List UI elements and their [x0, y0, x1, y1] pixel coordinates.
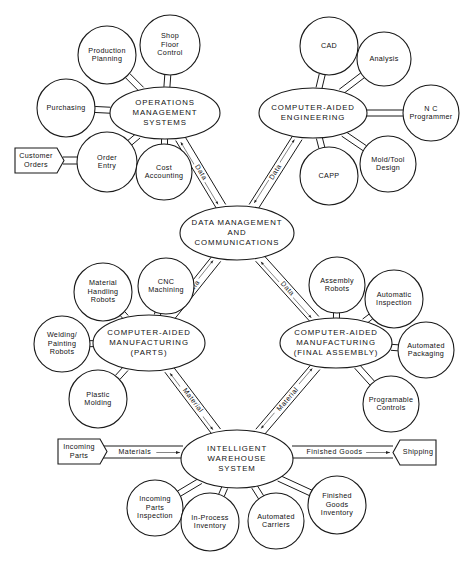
node-label: Analysis — [369, 54, 398, 63]
hub-label: COMMUNICATIONS — [195, 238, 280, 247]
hub-label: SYSTEMS — [143, 118, 187, 127]
hub-label: MANAGEMENT — [133, 108, 198, 117]
link-camf-iws: Material — [256, 363, 320, 436]
spoke-purchasing — [95, 106, 111, 113]
node-assembly-robots[interactable]: AssemblyRobots — [309, 257, 365, 313]
link-cae-dmc: Data — [249, 134, 302, 209]
spoke-mold-tool-design — [342, 131, 367, 151]
hub-label: WAREHOUSE — [208, 454, 267, 463]
hub-iws[interactable]: INTELLIGENTWAREHOUSESYSTEM — [181, 430, 293, 488]
node-label: Molding — [84, 398, 111, 407]
node-cost-accounting[interactable]: CostAccounting — [136, 144, 192, 200]
hub-cae[interactable]: COMPUTER-AIDEDENGINEERING — [259, 88, 367, 138]
hub-label: DATA MANAGEMENT — [192, 218, 283, 227]
node-programable-controls[interactable]: ProgramableControls — [363, 376, 419, 432]
node-label: Control — [157, 48, 182, 57]
spoke-analysis — [339, 73, 364, 94]
terminal-label: Shipping — [403, 447, 433, 456]
hub-camf[interactable]: COMPUTER-AIDEDMANUFACTURING(FINAL ASSEMB… — [280, 318, 392, 368]
node-incoming-parts-inspection[interactable]: IncomingPartsInspection — [127, 480, 183, 536]
node-layer: OPERATIONSMANAGEMENTSYSTEMSCOMPUTER-AIDE… — [34, 15, 459, 551]
hub-label: SYSTEM — [218, 464, 255, 473]
cim-diagram: DataDataDataDataMaterialMaterial Materia… — [0, 0, 474, 564]
node-mold-tool-design[interactable]: Mold/ToolDesign — [360, 136, 416, 192]
node-label: Packaging — [408, 349, 444, 358]
terminal-incoming-parts[interactable]: IncomingParts — [58, 439, 107, 464]
hub-camp[interactable]: COMPUTER-AIDEDMANUFACTURING(PARTS) — [93, 315, 205, 371]
terminal-shipping[interactable]: Shipping — [393, 440, 436, 465]
node-label: Purchasing — [47, 103, 86, 112]
hub-label: COMPUTER-AIDED — [107, 328, 191, 337]
node-label: Robots — [50, 347, 75, 356]
spoke-cad — [316, 74, 325, 89]
node-label: Carriers — [262, 520, 290, 529]
node-label: Robots — [91, 295, 116, 304]
hub-label: ENGINEERING — [281, 113, 346, 122]
node-capp[interactable]: CAPP — [300, 147, 358, 205]
node-automatic-inspection[interactable]: AutomaticInspection — [365, 270, 423, 328]
flow-customer-orders — [63, 157, 77, 164]
node-label: CAPP — [319, 171, 340, 180]
node-welding-painting-robots[interactable]: Welding/PaintingRobots — [34, 316, 90, 372]
node-shop-floor-control[interactable]: ShopFloorControl — [140, 15, 200, 75]
node-label: Programmer — [410, 112, 453, 121]
hub-label: (FINAL ASSEMBLY) — [294, 348, 379, 357]
hub-oms[interactable]: OPERATIONSMANAGEMENTSYSTEMS — [110, 87, 220, 139]
terminal-label: Parts — [70, 451, 88, 460]
hub-label: INTELLIGENT — [207, 444, 267, 453]
node-label: Inventory — [321, 508, 353, 517]
node-material-handling-robots[interactable]: MaterialHandlingRobots — [74, 263, 132, 321]
spoke-capp — [316, 137, 324, 149]
spoke-production-planning — [125, 73, 143, 91]
node-cad[interactable]: CAD — [300, 17, 358, 75]
node-label: Inspection — [137, 511, 173, 520]
node-label: Inspection — [376, 298, 412, 307]
spoke-programable-controls — [355, 364, 375, 385]
node-label: Machining — [148, 285, 183, 294]
link-camp-iws: Material — [165, 366, 221, 435]
hub-label: MANUFACTURING — [109, 338, 189, 347]
node-label: Design — [376, 163, 400, 172]
spoke-shop-floor-control — [164, 75, 171, 88]
node-label: CAD — [321, 41, 337, 50]
spoke-assembly-robots — [333, 313, 339, 318]
node-purchasing[interactable]: Purchasing — [37, 79, 95, 137]
hub-label: AND — [227, 228, 246, 237]
hub-label: COMPUTER-AIDED — [271, 103, 355, 112]
flow-label: Finished Goods — [306, 448, 362, 455]
node-plastic-molding[interactable]: PlasticMolding — [69, 370, 127, 428]
hub-label: COMPUTER-AIDED — [294, 328, 378, 337]
node-automated-carriers[interactable]: AutomatedCarriers — [248, 493, 304, 549]
hub-dmc[interactable]: DATA MANAGEMENTANDCOMMUNICATIONS — [180, 206, 294, 260]
node-label: Entry — [98, 161, 116, 170]
hub-label: OPERATIONS — [135, 98, 195, 107]
node-label: Controls — [376, 403, 405, 412]
node-nc-programmer[interactable]: N CProgrammer — [403, 85, 459, 141]
node-production-planning[interactable]: ProductionPlanning — [78, 26, 136, 84]
node-finished-goods-inventory[interactable]: FinishedGoodsInventory — [308, 476, 366, 534]
spoke-nc-programmer — [367, 110, 403, 116]
spoke-incoming-parts-inspection — [177, 478, 201, 496]
node-in-process-inventory[interactable]: In-ProcessInventory — [181, 493, 239, 551]
spoke-finished-goods-inventory — [278, 476, 312, 496]
node-order-entry[interactable]: OrderEntry — [77, 132, 137, 192]
node-cnc-machining[interactable]: CNCMachining — [138, 258, 194, 314]
terminal-customer-orders[interactable]: CustomerOrders — [15, 148, 64, 173]
node-label: Inventory — [194, 521, 226, 530]
node-analysis[interactable]: Analysis — [357, 32, 411, 86]
hub-label: MANUFACTURING — [296, 338, 376, 347]
flow-finished-goods-flow: Finished Goods — [292, 446, 393, 458]
node-automated-packaging[interactable]: AutomatedPackaging — [398, 322, 454, 378]
flow-label: Materials — [118, 448, 151, 455]
terminal-label: Orders — [24, 160, 48, 169]
node-label: Planning — [92, 54, 122, 63]
node-label: Robots — [325, 284, 350, 293]
node-label: Accounting — [145, 171, 184, 180]
spoke-cost-accounting — [161, 139, 167, 144]
flow-materials-flow: Materials — [100, 446, 183, 458]
hub-label: (PARTS) — [131, 348, 168, 357]
